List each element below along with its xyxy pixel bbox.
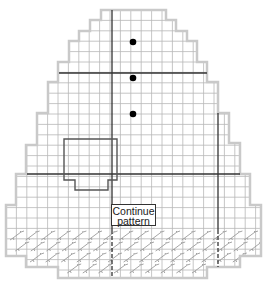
knitting-chart [0,0,267,284]
pocket-outline [64,139,117,190]
label-line-2: pattern [112,216,155,226]
continue-pattern-label: Continue pattern [111,204,156,226]
section-lines [27,10,240,278]
